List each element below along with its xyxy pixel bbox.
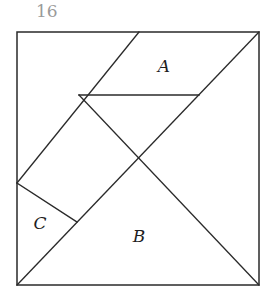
descending-diagonal	[79, 95, 259, 285]
label-b: B	[133, 226, 146, 246]
label-a: A	[158, 56, 170, 76]
square-lower-edge	[17, 183, 77, 222]
tangram-figure	[0, 0, 275, 300]
upper-left-diagonal	[17, 32, 139, 183]
label-c: C	[33, 213, 46, 233]
